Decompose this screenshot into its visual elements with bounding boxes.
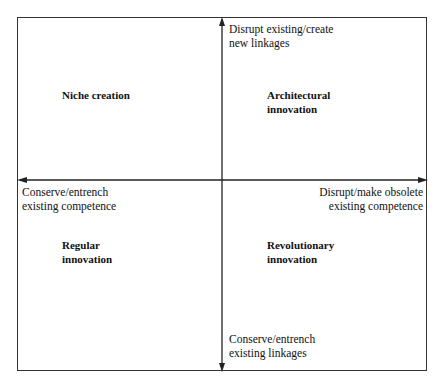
right-axis-label-line1: Disrupt/make obsolete — [319, 185, 423, 199]
quadrant-bottom-left-line1: Regular — [62, 238, 112, 252]
top-axis-label-line2: new linkages — [229, 36, 333, 50]
top-axis-label: Disrupt existing/create new linkages — [229, 22, 333, 50]
bottom-axis-label-line2: existing linkages — [229, 346, 315, 360]
right-axis-label: Disrupt/make obsolete existing competenc… — [319, 185, 423, 213]
quadrant-revolutionary-innovation: Revolutionary innovation — [267, 238, 334, 266]
quadrant-top-right-line1: Architectural — [267, 88, 330, 102]
left-axis-label-line1: Conserve/entrench — [22, 185, 116, 199]
quadrant-bottom-right-line2: innovation — [267, 252, 334, 266]
quadrant-top-right-line2: innovation — [267, 102, 330, 116]
quadrant-top-left-line1: Niche creation — [62, 88, 130, 102]
top-axis-label-line1: Disrupt existing/create — [229, 22, 333, 36]
bottom-axis-label-line1: Conserve/entrench — [229, 332, 315, 346]
quadrant-bottom-right-line1: Revolutionary — [267, 238, 334, 252]
quadrant-niche-creation: Niche creation — [62, 88, 130, 102]
right-axis-label-line2: existing competence — [319, 199, 423, 213]
left-axis-label: Conserve/entrench existing competence — [22, 185, 116, 213]
quadrant-architectural-innovation: Architectural innovation — [267, 88, 330, 116]
quadrant-regular-innovation: Regular innovation — [62, 238, 112, 266]
bottom-axis-label: Conserve/entrench existing linkages — [229, 332, 315, 360]
quadrant-bottom-left-line2: innovation — [62, 252, 112, 266]
left-axis-label-line2: existing competence — [22, 199, 116, 213]
vertical-axis-arrow — [219, 17, 225, 372]
